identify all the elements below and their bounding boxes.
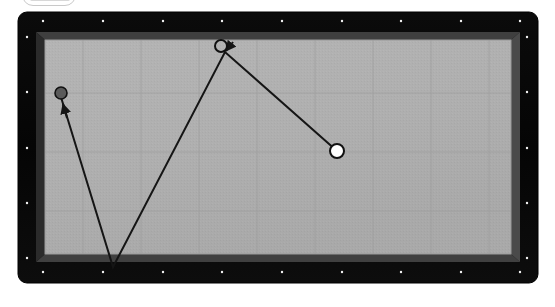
end-puck[interactable] bbox=[330, 144, 344, 158]
top-badge-content bbox=[30, 0, 70, 1]
scene-canvas: Air hockey table top-down view with puck… bbox=[0, 0, 555, 307]
game-table[interactable] bbox=[17, 11, 539, 284]
start-puck[interactable] bbox=[55, 87, 67, 99]
scene-title: Air hockey table top-down view with puck… bbox=[0, 0, 1, 1]
table-svg bbox=[17, 11, 539, 284]
top-badge[interactable] bbox=[22, 0, 76, 6]
playing-surface[interactable] bbox=[45, 40, 511, 254]
